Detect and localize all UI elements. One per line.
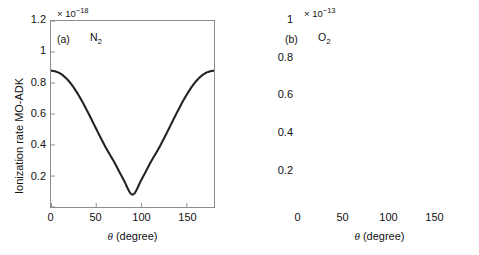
x-axis-unit-b: (degree): [363, 230, 405, 242]
x-axis-label-b: θ (degree): [297, 230, 462, 242]
multiplier-exponent-a: −18: [76, 6, 89, 15]
species-main-b: O: [318, 31, 326, 43]
x-axis-unit-a: (degree): [116, 230, 158, 242]
xtick-a-1: 50: [81, 211, 110, 223]
xtick-b-1: 50: [328, 211, 357, 223]
species-main-a: N: [90, 31, 98, 43]
xtick-a-3: 150: [173, 211, 202, 223]
panel-tag-b-text: (b): [285, 33, 298, 45]
ytick-a-1: 1: [6, 44, 46, 56]
axis-ticks-a: [51, 21, 214, 207]
ytick-a-5: 0.2: [6, 170, 46, 182]
xtick-a-2: 100: [127, 211, 156, 223]
plot-area-a: [50, 20, 215, 208]
ytick-b-3: 0.4: [253, 126, 293, 138]
panel-a: × 10−18 Ionization rate MO-ADK: [0, 0, 240, 255]
multiplier-exponent-b: −13: [323, 6, 336, 15]
ytick-b-0: 1: [253, 13, 293, 25]
x-axis-label-a: θ (degree): [50, 230, 215, 242]
multiplier-prefix-a: × 10: [57, 8, 76, 19]
species-sub-b: 2: [326, 37, 330, 46]
panel-b: × 10−13 Ionization rate MO-ADK: [240, 0, 479, 255]
ytick-b-2: 0.6: [253, 88, 293, 100]
ytick-a-3: 0.6: [6, 107, 46, 119]
ytick-b-1: 0.8: [253, 51, 293, 63]
species-label-a: N2: [90, 31, 102, 46]
multiplier-prefix-b: × 10: [304, 8, 323, 19]
figure-root: × 10−18 Ionization rate MO-ADK: [0, 0, 479, 255]
panel-tag-b: (b): [285, 33, 298, 45]
species-sub-a: 2: [98, 37, 102, 46]
species-label-b: O2: [318, 31, 331, 46]
ytick-b-4: 0.2: [253, 164, 293, 176]
xtick-b-2: 100: [374, 211, 403, 223]
xtick-b-0: 0: [283, 211, 312, 223]
x-axis-symbol-b: θ: [354, 230, 359, 242]
ytick-a-2: 0.8: [6, 76, 46, 88]
ytick-a-0: 1.2: [6, 13, 46, 25]
panel-tag-a-text: (a): [57, 33, 70, 45]
x-axis-symbol-a: θ: [107, 230, 112, 242]
xtick-a-0: 0: [36, 211, 65, 223]
xtick-b-3: 150: [420, 211, 449, 223]
panel-tag-a: (a): [57, 33, 70, 45]
ytick-a-4: 0.4: [6, 138, 46, 150]
y-multiplier-a: × 10−18: [57, 6, 89, 19]
y-multiplier-b: × 10−13: [304, 6, 336, 19]
